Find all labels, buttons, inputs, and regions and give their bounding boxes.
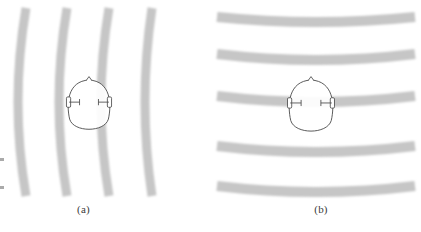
wavefront-band xyxy=(18,8,26,196)
wavefront-band xyxy=(217,17,415,22)
panel-b-canvas xyxy=(211,0,421,232)
head-diagram-b xyxy=(288,77,335,132)
panel-a-canvas xyxy=(0,0,211,232)
panel-b-caption: (b) xyxy=(216,203,421,215)
figure-container: (a) (b) xyxy=(0,0,421,232)
panel-a: (a) xyxy=(0,0,211,232)
panel-a-caption: (a) xyxy=(0,203,189,215)
head-outline xyxy=(289,80,333,131)
head-outline xyxy=(68,80,110,129)
nose-marker xyxy=(308,77,314,81)
edge-artifact-mark xyxy=(0,186,4,189)
panel-b: (b) xyxy=(211,0,421,232)
wavefront-band xyxy=(217,186,415,192)
wavefront-band xyxy=(59,8,67,196)
edge-artifact-mark xyxy=(0,158,4,161)
nose-marker xyxy=(86,77,92,81)
wavefront-band xyxy=(217,146,415,152)
wavefront-band xyxy=(145,8,152,196)
wavefront-band xyxy=(217,54,415,60)
